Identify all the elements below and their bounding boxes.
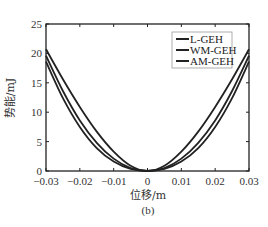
y-tick-label: 15 <box>31 77 43 89</box>
y-tick-label: 20 <box>31 47 43 59</box>
potential-energy-chart: −0.03−0.02−0.0100.010.020.03 0510152025 … <box>0 0 268 227</box>
x-tick-label: 0.02 <box>206 175 225 187</box>
legend-label-am-geh: AM-GEH <box>190 55 234 67</box>
x-axis-label: 位移/m <box>130 188 167 202</box>
legend: L-GEH WM-GEH AM-GEH <box>172 32 236 68</box>
x-tick-label: −0.02 <box>67 175 92 187</box>
y-axis-label: 势能/mJ <box>3 78 17 119</box>
y-tick-label: 25 <box>31 18 43 30</box>
figure-caption: (b) <box>142 204 155 217</box>
x-tick-label: 0.03 <box>239 175 259 187</box>
x-tick-label: −0.01 <box>101 175 126 187</box>
series-wm-geh-line <box>46 56 249 171</box>
x-tick-label: 0 <box>145 175 151 187</box>
y-tick-label: 0 <box>37 165 43 177</box>
x-tick-label: 0.01 <box>172 175 191 187</box>
y-tick-label: 5 <box>37 136 43 148</box>
y-tick-label: 10 <box>31 106 43 118</box>
